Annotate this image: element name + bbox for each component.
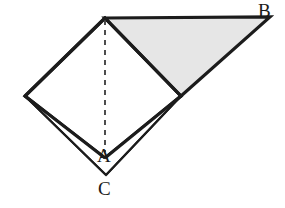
vertex-label-c: C [98,179,111,198]
figure-canvas [0,0,285,208]
vertex-label-b: B [258,1,271,20]
vertex-label-a: A [97,146,111,165]
geometry-figure: A B C [0,0,285,208]
